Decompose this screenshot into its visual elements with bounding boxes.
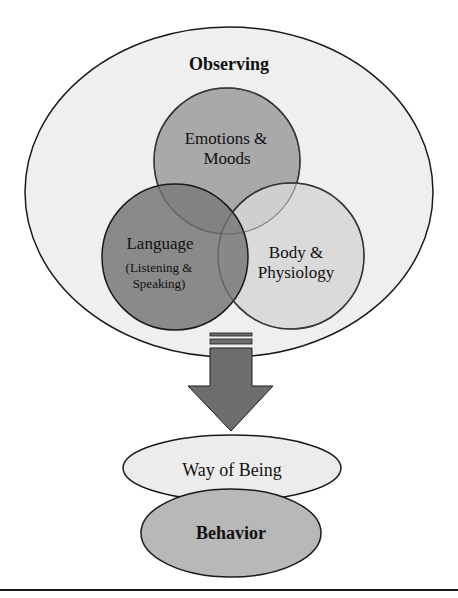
observing-label: Observing [189,54,269,74]
emotions-label-line1: Emotions & [185,129,268,148]
way-of-being-label: Way of Being [182,460,282,480]
observing-diagram: Observing Emotions & Moods Language (Lis… [0,0,458,598]
behavior-label: Behavior [196,523,266,543]
language-label: Language [126,234,193,253]
body-label-line1: Body & [269,243,323,262]
body-label-line2: Physiology [258,263,335,282]
language-sublabel-line1: (Listening & [126,260,193,275]
language-sublabel-line2: Speaking) [133,276,186,291]
language-circle [102,184,248,330]
emotions-label-line2: Moods [203,149,250,168]
